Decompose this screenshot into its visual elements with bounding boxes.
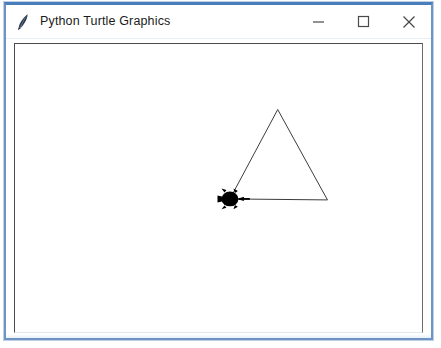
window-bottom-edge — [6, 334, 431, 338]
minimize-icon — [312, 15, 325, 28]
turtle-graphics-window: Python Turtle Graphics — [4, 2, 433, 340]
maximize-button[interactable] — [341, 6, 386, 37]
close-icon — [402, 15, 416, 29]
drawn-triangle-path — [230, 110, 328, 200]
title-bar[interactable]: Python Turtle Graphics — [6, 5, 431, 39]
window-title: Python Turtle Graphics — [40, 15, 296, 28]
desktop-background: Python Turtle Graphics — [0, 0, 441, 348]
turtle-drawing-surface[interactable] — [15, 44, 422, 332]
feather-pen-icon — [15, 13, 31, 31]
minimize-button[interactable] — [296, 6, 341, 37]
turtle-canvas-area[interactable] — [14, 43, 423, 333]
close-button[interactable] — [386, 6, 431, 37]
maximize-icon — [357, 15, 370, 28]
